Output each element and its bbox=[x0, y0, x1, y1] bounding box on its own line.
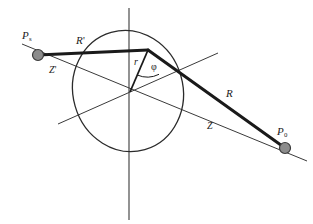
source-point-label: Ps bbox=[22, 30, 31, 41]
incident-axis-label: Z' bbox=[49, 65, 56, 76]
azimuth-angle-label: φ bbox=[151, 62, 157, 72]
phi-angle-arc bbox=[137, 74, 159, 77]
source-point-dot bbox=[33, 50, 44, 61]
scattered-ray-label: R bbox=[226, 88, 233, 99]
observer-point-label: P0 bbox=[277, 126, 287, 137]
secondary-axis-line bbox=[58, 53, 218, 124]
scattered-ray-line bbox=[148, 50, 285, 148]
incident-ray-label: R' bbox=[76, 35, 85, 46]
observer-point-dot bbox=[280, 143, 291, 154]
diagram-svg bbox=[0, 0, 313, 224]
radius-label: r bbox=[134, 57, 138, 67]
incident-ray-line bbox=[38, 50, 148, 55]
scattered-axis-label: Z bbox=[207, 121, 213, 131]
figure-canvas: Ps P0 R' Z' r φ R Z bbox=[0, 0, 313, 224]
